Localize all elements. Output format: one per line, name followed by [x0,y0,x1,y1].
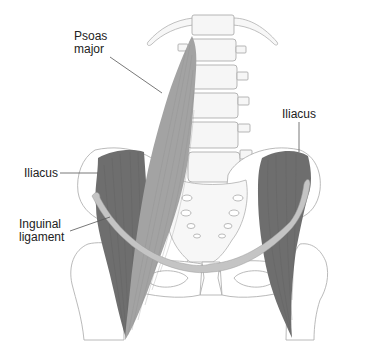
label-psoas-major-line2: major [74,43,107,56]
label-inguinal-line2: ligament [19,231,64,244]
label-iliacus-left: Iliacus [24,167,58,180]
label-psoas-major: Psoas major [74,30,107,56]
psoas-leader [110,57,162,93]
label-inguinal-ligament: Inguinal ligament [19,218,64,244]
label-iliacus-right: Iliacus [282,108,316,121]
